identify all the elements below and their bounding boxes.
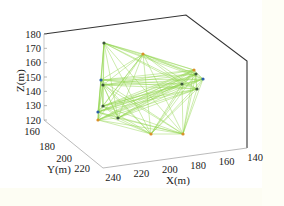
- connection-lines: [98, 43, 203, 134]
- x-tick-label: 220: [134, 168, 150, 179]
- z-tick-label: 120: [25, 115, 41, 126]
- y-tick-label: 160: [24, 126, 40, 137]
- y-tick-label: 180: [39, 141, 55, 152]
- z-tick-label: 180: [25, 29, 41, 40]
- z-axis-label: Z(m): [14, 69, 27, 92]
- y-axis-label: Y(m): [47, 163, 71, 176]
- node-marker: [141, 52, 144, 55]
- y-tick-label: 220: [74, 163, 90, 174]
- x-tick-label: 240: [105, 172, 121, 183]
- node-marker: [192, 68, 195, 71]
- node-marker: [194, 72, 197, 75]
- node-marker: [99, 78, 102, 81]
- x-tick-label: 180: [190, 160, 206, 171]
- node-marker: [101, 83, 104, 86]
- connection-line: [103, 85, 151, 134]
- x-axis-label: X(m): [166, 174, 190, 187]
- node-marker: [96, 118, 99, 121]
- node-marker: [149, 132, 152, 135]
- node-marker: [181, 132, 184, 135]
- connection-line: [104, 43, 182, 84]
- z-tick-label: 130: [25, 100, 41, 111]
- z-tick-label: 170: [25, 43, 41, 54]
- node-marker: [201, 77, 204, 80]
- node-marker: [180, 82, 183, 85]
- plot-3d: 180170160150140130120 160180200220 24022…: [0, 0, 284, 206]
- x-tick-label: 140: [247, 152, 263, 163]
- node-marker: [101, 104, 104, 107]
- node-marker: [195, 87, 198, 90]
- connection-line: [98, 120, 183, 134]
- z-tick-label: 150: [25, 72, 41, 83]
- node-marker: [102, 41, 105, 44]
- z-tick-label: 140: [25, 86, 41, 97]
- connection-line: [98, 120, 151, 134]
- x-tick-label: 160: [219, 156, 235, 167]
- connection-line: [98, 80, 101, 120]
- chart-figure: 180170160150140130120 160180200220 24022…: [0, 0, 284, 206]
- node-marker: [116, 116, 119, 119]
- z-tick-label: 160: [25, 57, 41, 68]
- node-marker: [96, 110, 99, 113]
